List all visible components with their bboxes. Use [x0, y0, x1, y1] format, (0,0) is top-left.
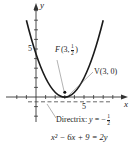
focus-point	[63, 91, 66, 94]
y-tick-label-5: 5	[28, 45, 32, 53]
x-tick-label-5: 5	[82, 103, 86, 111]
y-axis-label: y	[40, 1, 44, 10]
focus-label: F (3, 1 2 )	[55, 44, 78, 56]
directrix-eq: = −	[93, 116, 106, 124]
x-axis-label: x	[124, 100, 128, 109]
vertex-leader-line	[69, 72, 93, 95]
focus-letter: F	[55, 46, 60, 54]
focus-coords: (3,	[61, 46, 70, 54]
y-axis	[34, 3, 39, 122]
directrix-label: Directrix: y = − 1 2	[56, 114, 110, 126]
directrix-leader-line	[47, 104, 56, 118]
directrix-frac-den: 2	[107, 121, 110, 127]
focus-close: )	[75, 46, 78, 54]
focus-fraction: 1 2	[71, 44, 75, 56]
directrix-fraction: 1 2	[107, 114, 111, 126]
directrix-prefix: Directrix:	[56, 116, 89, 124]
vertex-label: V(3, 0)	[94, 68, 117, 76]
parabola-curve	[26, 20, 103, 97]
equation-caption: x² − 6x + 9 = 2y	[51, 133, 108, 142]
focus-leader-line	[57, 60, 64, 91]
focus-frac-den: 2	[71, 51, 74, 57]
y-axis-arrow-icon	[34, 3, 39, 10]
